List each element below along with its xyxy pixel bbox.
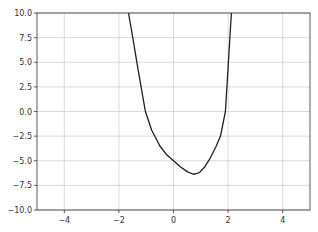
- x-tick-label: 2: [226, 216, 231, 225]
- y-tick-label: 0.0: [19, 108, 32, 117]
- grid-lines: [37, 13, 310, 210]
- y-tick-label: 7.5: [19, 34, 32, 43]
- y-tick-label: −7.5: [13, 181, 32, 190]
- y-tick-label: 2.5: [19, 83, 32, 92]
- x-axis-ticks: −4−2024: [58, 210, 285, 225]
- y-tick-label: −2.5: [13, 132, 32, 141]
- curve-line: [129, 13, 232, 174]
- x-tick-label: 4: [280, 216, 285, 225]
- x-tick-label: 0: [171, 216, 176, 225]
- x-tick-label: −4: [58, 216, 70, 225]
- y-tick-label: −10.0: [7, 206, 32, 215]
- y-tick-label: 5.0: [19, 58, 32, 67]
- x-tick-label: −2: [113, 216, 125, 225]
- y-axis-ticks: 10.07.55.02.50.0−2.5−5.0−7.5−10.0: [7, 9, 37, 215]
- y-tick-label: 10.0: [14, 9, 32, 18]
- function-plot: −4−2024 10.07.55.02.50.0−2.5−5.0−7.5−10.…: [0, 0, 318, 232]
- y-tick-label: −5.0: [13, 157, 32, 166]
- series-line: [129, 13, 232, 174]
